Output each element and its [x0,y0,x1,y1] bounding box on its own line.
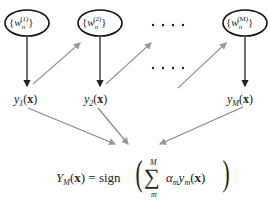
edge-ym-out [160,107,243,144]
edge-prev-wm [178,43,226,88]
ellipsis-top [152,24,184,26]
ellipsis-middle [152,67,184,69]
weight-label-m: {wn(M)} [226,15,253,31]
weight-label-2: {wn(2)} [82,15,107,31]
classifier-label-1: y1(x) [14,92,37,108]
edge-y1-w2 [33,43,80,84]
classifier-label-m: yM(x) [227,92,253,108]
weight-label-1: {wn(1)} [9,15,34,31]
classifier-label-2: y2(x) [84,92,107,108]
edge-y2-next [106,43,151,84]
ensemble-formula: YM(x) = sign ( M ∑ m αmym(x) ) [56,158,226,198]
